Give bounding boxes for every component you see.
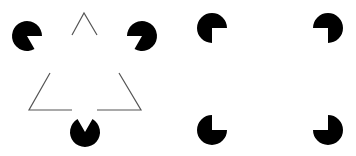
- pacman-inducer: [127, 21, 157, 51]
- pacman-inducer: [12, 21, 42, 51]
- illusion-svg: [0, 0, 356, 156]
- outline-angle: [72, 13, 97, 35]
- pacman-inducer: [70, 119, 100, 147]
- pacman-inducer: [313, 115, 343, 145]
- pacman-inducer: [313, 13, 343, 43]
- kanizsa-square-figure: [197, 13, 343, 145]
- kanizsa-triangle-figure: [12, 13, 157, 147]
- illusion-canvas: [0, 0, 356, 156]
- outline-angle: [29, 73, 72, 110]
- outline-angle: [97, 73, 141, 110]
- pacman-inducer: [197, 13, 227, 43]
- pacman-inducer: [197, 115, 227, 145]
